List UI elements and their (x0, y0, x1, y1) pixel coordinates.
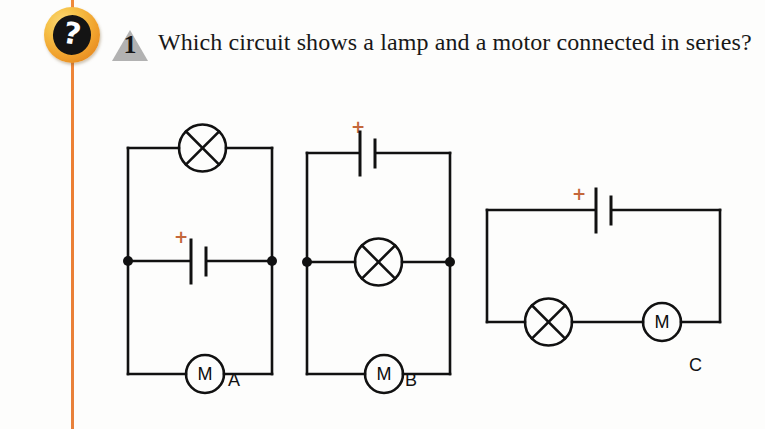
circuit-b-plus-sign: + (351, 119, 365, 136)
circuit-b-motor-icon (365, 355, 403, 393)
circuit-b-motor-letter: M (377, 364, 392, 384)
circuit-a (123, 125, 277, 394)
circuit-a-motor-letter: M (198, 364, 213, 384)
circuit-c-motor-icon (643, 303, 681, 341)
circuit-b-label: B (405, 371, 417, 389)
circuit-a-lamp-x2 (186, 132, 219, 165)
circuit-a-lamp-icon (179, 125, 226, 172)
circuit-b-lamp-x1 (362, 246, 395, 279)
circuit-c-lamp-icon (525, 299, 572, 346)
worksheet-page: ? 1 Which circuit shows a lamp and a mot… (0, 0, 765, 429)
circuit-a-junction-left (123, 256, 133, 266)
circuit-b-junction-right (445, 257, 455, 267)
circuit-c-plus-sign: + (572, 186, 586, 203)
question-mark-badge-icon: ? (44, 7, 100, 63)
question-number: 1 (112, 28, 152, 62)
circuit-c-lamp-x2 (532, 306, 565, 339)
circuit-a-lamp-x1 (186, 132, 219, 165)
circuit-a-junction-right (267, 256, 277, 266)
circuit-c-label: C (689, 356, 702, 374)
circuit-a-motor-icon (186, 355, 224, 393)
circuit-c (487, 189, 720, 346)
circuit-a-plus-sign: + (174, 229, 188, 246)
circuit-c-lamp-x1 (532, 306, 565, 339)
circuit-a-label: A (228, 371, 240, 389)
circuit-b-lamp-icon (355, 239, 402, 286)
circuit-b-lamp-x2 (362, 246, 395, 279)
badge-question-glyph: ? (40, 3, 105, 68)
circuit-diagrams: M (0, 0, 765, 429)
circuit-b (302, 132, 455, 393)
question-number-label: 1 (112, 28, 148, 62)
question-text: Which circuit shows a lamp and a motor c… (158, 27, 758, 58)
margin-rule (71, 0, 74, 429)
circuit-b-junction-left (302, 257, 312, 267)
circuit-c-motor-letter: M (655, 312, 670, 332)
